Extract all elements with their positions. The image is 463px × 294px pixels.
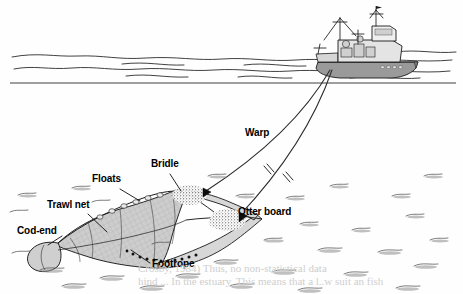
label-cod-end: Cod-end [17,225,57,236]
leader-floats [120,189,140,201]
leader-bridle [170,174,181,191]
page-bleed-line-2: hind ... In the estuary, This means that… [138,275,383,287]
warp-break-marks [264,164,293,182]
label-otter-board: Otter board [238,206,291,217]
label-bridle: Bridle [151,158,179,169]
label-trawl-net: Trawl net [47,199,89,210]
trawl-diagram-figure: Bridle Floats Trawl net Cod-end Footrope… [0,0,463,294]
warp-cables [206,70,332,216]
page-bleed-line-1: Crosby, 1984) Thus, no non-statistical d… [138,262,327,274]
diagram-artwork [0,0,463,294]
label-floats: Floats [92,173,121,184]
label-warp: Warp [245,127,269,138]
trawler-vessel [314,6,418,78]
